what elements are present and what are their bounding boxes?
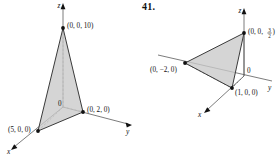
right-z-intercept-frac-numerator: 3 bbox=[268, 27, 271, 33]
right-x-axis-label: x bbox=[197, 110, 202, 119]
right-origin-label: 0 bbox=[247, 67, 251, 75]
left-x-intercept-label: (5, 0, 0) bbox=[8, 126, 31, 134]
right-z-intercept-label-close: ) bbox=[272, 28, 275, 36]
left-figure-panel: z y x 0 (0, 0, 10) (0, 2, 0) (5, 0, 0) bbox=[0, 0, 140, 157]
left-z-axis-label: z bbox=[57, 1, 61, 10]
right-z-intercept-dot bbox=[242, 31, 246, 35]
left-origin-label: 0 bbox=[58, 100, 62, 108]
right-y-intercept-label: (0, −2, 0) bbox=[150, 66, 177, 74]
right-figure-panel: z y x 0 (0, 0, 3 2 ) (0, −2, 0) (1, 0, 0… bbox=[140, 0, 277, 157]
left-x-axis-label: x bbox=[6, 147, 11, 156]
figure-sheet: 41. bbox=[0, 0, 277, 157]
right-plane-triangle bbox=[185, 33, 244, 88]
left-z-intercept-dot bbox=[61, 26, 65, 30]
right-z-intercept-frac-denominator: 2 bbox=[268, 33, 271, 39]
left-y-intercept-dot bbox=[81, 110, 85, 114]
right-x-intercept-dot bbox=[230, 86, 234, 90]
right-y-axis-label: y bbox=[267, 83, 272, 92]
left-z-intercept-label: (0, 0, 10) bbox=[67, 22, 94, 30]
left-plane-triangle bbox=[38, 28, 83, 131]
right-z-intercept-label: (0, 0, 3 2 ) bbox=[248, 27, 275, 40]
right-z-intercept-label-text: (0, 0, bbox=[248, 28, 263, 36]
left-x-intercept-dot bbox=[36, 129, 40, 133]
left-y-axis-label: y bbox=[125, 127, 130, 136]
right-x-intercept-label: (1, 0, 0) bbox=[235, 89, 258, 97]
right-y-intercept-dot bbox=[183, 61, 187, 65]
right-z-axis-label: z bbox=[238, 6, 242, 15]
left-y-intercept-label: (0, 2, 0) bbox=[87, 106, 110, 114]
